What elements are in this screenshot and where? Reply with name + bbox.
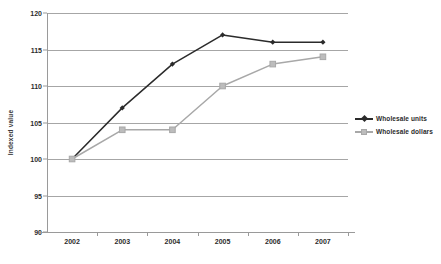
series-line-wholesale-dollars [72,57,323,159]
x-tick-label-2005: 2005 [203,238,243,245]
legend-item-wholesale-units[interactable]: Wholesale units [355,112,441,125]
legend-label-units: Wholesale units [376,115,427,122]
x-tick-label-2004: 2004 [152,238,192,245]
legend-swatch-units-icon [355,114,373,123]
y-tick-label-100: 100 [16,156,42,163]
legend-label-dollars: Wholesale dollars [376,128,433,135]
x-tick-label-2003: 2003 [102,238,142,245]
x-tick-mark-2002 [97,233,98,236]
y-tick-label-120: 120 [16,10,42,17]
line-chart: Indexed value 9095100105110115120 200220… [0,0,441,264]
data-point-wholesale-dollars-2002[interactable] [69,156,75,162]
data-point-wholesale-dollars-2004[interactable] [170,127,176,133]
data-point-wholesale-units-2006[interactable] [270,40,275,45]
y-axis-title-label: Indexed value [8,109,15,155]
x-tick-label-2002: 2002 [52,238,92,245]
x-tick-mark-2004 [198,233,199,236]
y-tick-label-105: 105 [16,119,42,126]
x-tick-mark-2005 [248,233,249,236]
y-tick-label-110: 110 [16,83,42,90]
data-point-wholesale-dollars-2007[interactable] [320,54,326,60]
y-tick-label-115: 115 [16,46,42,53]
x-tick-mark-2006 [298,233,299,236]
x-tick-label-2006: 2006 [253,238,293,245]
data-point-wholesale-dollars-2005[interactable] [220,83,226,89]
series-line-wholesale-units [72,35,323,159]
x-tick-label-2007: 2007 [303,238,343,245]
legend-item-wholesale-dollars[interactable]: Wholesale dollars [355,125,441,138]
data-point-wholesale-units-2007[interactable] [320,40,325,45]
data-point-wholesale-dollars-2006[interactable] [270,61,276,67]
x-tick-mark-2003 [147,233,148,236]
x-tick-mark-2007 [348,233,349,236]
chart-legend: Wholesale units Wholesale dollars [355,112,441,138]
series-layer [47,13,348,232]
y-tick-label-95: 95 [16,192,42,199]
data-point-wholesale-dollars-2003[interactable] [119,127,125,133]
y-axis-title: Indexed value [2,0,20,264]
legend-swatch-dollars-icon [355,127,373,136]
